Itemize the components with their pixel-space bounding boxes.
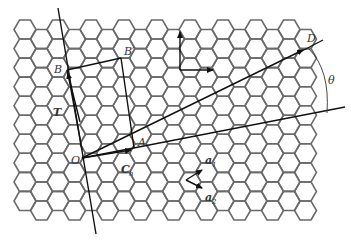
ob-arrow (68, 73, 82, 150)
label-a2: a 2 (205, 191, 217, 206)
label-A: A (137, 136, 146, 149)
label-a1-sub: 1 (212, 161, 216, 169)
label-theta: θ (328, 74, 335, 87)
label-B: B (53, 63, 62, 76)
label-D: D (306, 32, 316, 45)
hexagon-cell (295, 163, 317, 182)
graphene-lattice-diagram: O A B B′ D T θ C h a 1 a 2 (0, 0, 351, 245)
label-C-h-sub: h (129, 170, 134, 178)
hexagon-cell (295, 144, 317, 163)
label-O: O (71, 154, 80, 167)
label-a2-sub: 2 (211, 198, 217, 206)
label-B-prime: B′ (123, 45, 135, 58)
honeycomb-lattice (14, 20, 317, 220)
hexagon-cell (295, 49, 317, 68)
hexagon-cell (295, 68, 317, 87)
hexagon-cell (295, 125, 317, 144)
od-vector (82, 50, 303, 158)
label-T: T (53, 106, 62, 119)
hexagon-cell (295, 182, 317, 201)
label-C-h: C h (121, 163, 134, 178)
label-a1: a 1 (205, 154, 216, 169)
hexagon-cell (295, 201, 317, 220)
hexagon-cell (295, 87, 317, 106)
